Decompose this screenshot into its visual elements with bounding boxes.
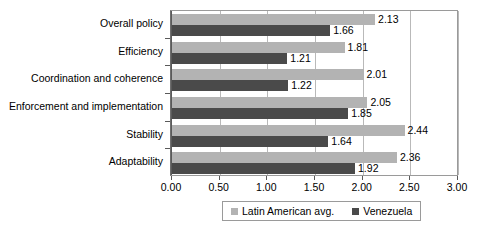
bar (172, 108, 348, 119)
category-label: Coordination and coherence (0, 73, 163, 84)
legend-item: Latin American avg. (231, 206, 334, 217)
bar-value-label: 2.01 (367, 69, 387, 80)
legend-item: Venezuela (352, 206, 412, 217)
bar-value-label: 1.22 (291, 80, 311, 91)
legend-label: Venezuela (363, 206, 412, 217)
category-tick (165, 65, 170, 66)
category-label: Overall policy (0, 18, 163, 29)
x-axis-tick-label: 0.50 (199, 181, 239, 193)
bar (172, 125, 405, 136)
x-axis-tick-label: 2.50 (389, 181, 429, 193)
category-label: Stability (0, 129, 163, 140)
x-axis-tick (171, 176, 172, 180)
category-tick (165, 38, 170, 39)
bar (172, 42, 345, 53)
bar-value-label: 1.21 (290, 53, 310, 64)
bar (172, 25, 330, 36)
x-axis-tick-label: 0.00 (151, 181, 191, 193)
bar-value-label: 2.36 (400, 152, 420, 163)
x-axis-tick-label: 1.00 (246, 181, 286, 193)
category-tick (165, 148, 170, 149)
bar-value-label: 1.66 (333, 25, 353, 36)
x-axis-tick (457, 176, 458, 180)
plot-area: 2.131.661.811.212.011.222.051.852.441.64… (170, 10, 458, 176)
bar (172, 97, 367, 108)
bar (172, 163, 355, 174)
bar (172, 53, 287, 64)
legend-swatch-icon (352, 208, 359, 215)
bar (172, 80, 288, 91)
x-axis-tick (362, 176, 363, 180)
bar-value-label: 2.05 (370, 97, 390, 108)
x-axis-tick-label: 2.00 (342, 181, 382, 193)
bar-value-label: 1.92 (358, 163, 378, 174)
legend-swatch-icon (231, 208, 238, 215)
bar-value-label: 2.44 (408, 125, 428, 136)
x-axis-tick-label: 1.50 (294, 181, 334, 193)
bar-value-label: 1.85 (351, 108, 371, 119)
category-tick (165, 93, 170, 94)
bar-value-label: 1.81 (348, 42, 368, 53)
gridline (363, 11, 364, 175)
bar (172, 136, 328, 147)
legend-label: Latin American avg. (242, 206, 334, 217)
category-label: Enforcement and implementation (0, 101, 163, 112)
x-axis-tick (409, 176, 410, 180)
bar-value-label: 2.13 (378, 14, 398, 25)
bar (172, 69, 364, 80)
category-label: Efficiency (0, 46, 163, 57)
gridline (458, 11, 459, 175)
x-axis-tick (219, 176, 220, 180)
x-axis-tick-label: 3.00 (437, 181, 477, 193)
x-axis-tick (266, 176, 267, 180)
category-axis-labels: Overall policyEfficiencyCoordination and… (0, 10, 167, 176)
category-tick (165, 121, 170, 122)
category-label: Adaptability (0, 156, 163, 167)
x-axis-tick (314, 176, 315, 180)
chart-legend: Latin American avg.Venezuela (222, 201, 421, 221)
bar-chart: Overall policyEfficiencyCoordination and… (0, 0, 482, 231)
bar-value-label: 1.64 (331, 136, 351, 147)
